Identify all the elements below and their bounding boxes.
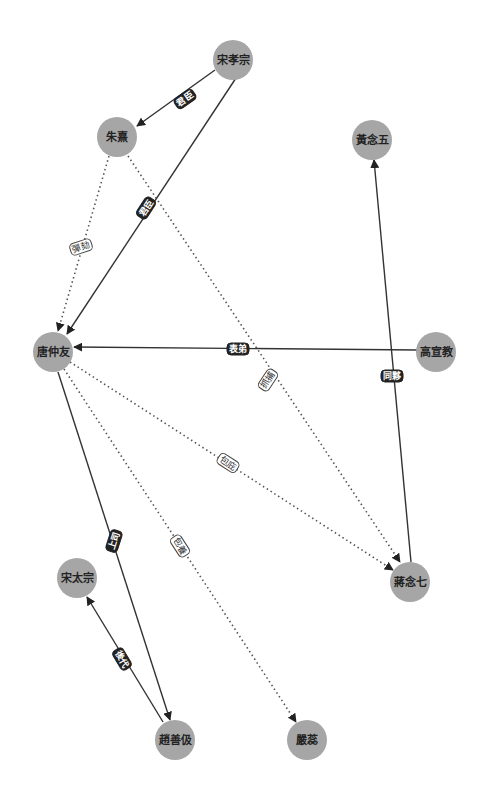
edge-label-text: 表弟	[228, 343, 247, 354]
node-label: 趙善伋	[159, 733, 192, 747]
node-huang-nianwu[interactable]: 黃念五	[352, 120, 392, 160]
edge-label-tonghuo[interactable]: 同夥	[381, 370, 403, 382]
node-label: 宋孝宗	[216, 53, 250, 67]
edge-label-houdai[interactable]: 後代	[111, 646, 133, 671]
node-label: 唐仲友	[37, 345, 70, 359]
edge-label-biaodi[interactable]: 表弟	[227, 343, 249, 355]
node-label: 嚴蕊	[296, 733, 318, 747]
edge-label-baoyang[interactable]: 包養	[169, 534, 191, 559]
edge-zhu-xi-to-jiang-nianqi[interactable]	[128, 156, 400, 562]
node-label: 黃念五	[355, 133, 389, 147]
node-label: 朱熹	[105, 130, 128, 144]
edge-labels: 君臣 君臣 彈劾 抓捕 表弟 同夥 包庇 包養	[69, 88, 403, 672]
edge-label-baobi[interactable]: 包庇	[216, 452, 241, 474]
node-jiang-nianqi[interactable]: 蔣念七	[390, 562, 430, 602]
node-yan-rui[interactable]: 嚴蕊	[287, 720, 327, 760]
edges	[58, 70, 417, 722]
node-zhu-xi[interactable]: 朱熹	[97, 117, 137, 157]
node-label: 蔣念七	[394, 575, 427, 589]
edge-label-junchen-1[interactable]: 君臣	[173, 88, 198, 110]
node-song-taizong[interactable]: 宋太宗	[57, 558, 97, 598]
edge-label-text: 同夥	[383, 370, 401, 381]
edge-jiang-nianqi-to-huang-nianwu[interactable]	[374, 160, 411, 562]
nodes: 宋孝宗 朱熹 黃念五 唐仲友 高宣教 蔣念七 宋太宗 趙善伋	[33, 40, 456, 760]
node-tang-zhongyou[interactable]: 唐仲友	[33, 332, 73, 372]
node-zhao-shanji[interactable]: 趙善伋	[155, 720, 195, 760]
node-label: 宋太宗	[60, 571, 94, 585]
edge-label-shangsi[interactable]: 上司	[105, 529, 123, 554]
node-gao-xuanjiao[interactable]: 高宣教	[416, 332, 456, 372]
node-song-xiaozong[interactable]: 宋孝宗	[213, 40, 253, 80]
edge-label-text: 彈劾	[71, 239, 92, 255]
edge-label-junchen-2[interactable]: 君臣	[135, 196, 157, 221]
relationship-graph: 君臣 君臣 彈劾 抓捕 表弟 同夥 包庇 包養	[0, 0, 488, 796]
edge-label-text: 上司	[106, 531, 122, 552]
node-label: 高宣教	[420, 345, 454, 359]
edge-label-tanhe[interactable]: 彈劾	[69, 238, 94, 256]
edge-label-zhuabu[interactable]: 抓捕	[257, 368, 279, 393]
